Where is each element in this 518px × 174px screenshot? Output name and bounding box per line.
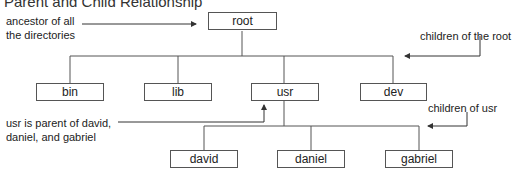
node-david: david — [170, 150, 238, 168]
node-bin: bin — [36, 83, 104, 101]
node-root: root — [208, 12, 277, 30]
node-dev: dev — [360, 83, 427, 101]
ancestor-annotation: ancestor of all the directories — [6, 14, 75, 42]
node-usr: usr — [251, 83, 319, 101]
node-daniel: daniel — [277, 150, 345, 168]
node-gabriel: gabriel — [385, 150, 453, 168]
usr-parent-annotation: usr is parent of david, daniel, and gabr… — [6, 116, 111, 144]
children-of-usr-annotation: children of usr — [428, 101, 497, 115]
children-of-root-annotation: children of the root — [420, 29, 511, 43]
node-lib: lib — [144, 83, 212, 101]
